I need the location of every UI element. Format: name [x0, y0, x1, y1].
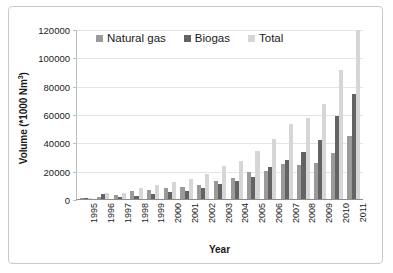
chart-figure: Volume (*1000 Nm3) 020000400006000080000…: [0, 0, 393, 273]
x-axis-tick-cell: 2009: [312, 201, 329, 243]
legend-item: Natural gas: [96, 32, 166, 44]
x-axis-tick-cell: 2001: [178, 201, 195, 243]
y-axis-tick-label: 20000: [24, 166, 70, 177]
x-axis-tick-cell: 2000: [161, 201, 178, 243]
bar: [272, 139, 276, 199]
y-axis-tick-label: 80000: [24, 81, 70, 92]
x-axis-tick-cell: 1997: [111, 201, 128, 243]
plot-area: [76, 30, 363, 200]
bar: [122, 193, 126, 199]
x-axis-tick-cell: 2006: [261, 201, 278, 243]
bar: [339, 70, 343, 199]
bar: [306, 118, 310, 199]
bar-group: [345, 30, 362, 199]
bar-group: [262, 30, 279, 199]
x-axis-tick-cell: 1996: [94, 201, 111, 243]
bar: [105, 193, 109, 199]
bar: [205, 174, 209, 199]
chart-legend: Natural gasBiogasTotal: [96, 32, 283, 44]
bar-group: [95, 30, 112, 199]
bar-group: [162, 30, 179, 199]
bar-group: [195, 30, 212, 199]
y-axis-title-superscript: 3: [17, 75, 24, 79]
bar-group: [212, 30, 229, 199]
x-axis-tick-labels: 1995199619971998199920002001200220032004…: [76, 201, 363, 243]
bar-group: [78, 30, 95, 199]
bar: [222, 166, 226, 199]
bar: [88, 198, 92, 199]
x-axis-tick-cell: 1999: [144, 201, 161, 243]
bar-group: [111, 30, 128, 199]
y-axis-tick-label: 40000: [24, 138, 70, 149]
y-axis-tick-label: 0: [24, 195, 70, 206]
bar-group: [312, 30, 329, 199]
x-axis-tick-cell: 2004: [228, 201, 245, 243]
y-axis-tick-label: 100000: [24, 53, 70, 64]
bar: [155, 185, 159, 199]
bar-groups: [77, 30, 363, 199]
bar: [322, 104, 326, 199]
x-axis-tick-cell: 2008: [295, 201, 312, 243]
bar: [189, 179, 193, 199]
bar-group: [278, 30, 295, 199]
x-axis-tick-cell: 2002: [194, 201, 211, 243]
y-axis-tick-labels: 020000400006000080000100000120000: [24, 30, 70, 200]
bar-group: [228, 30, 245, 199]
bar-group: [245, 30, 262, 199]
bar: [255, 151, 259, 199]
bar-group: [128, 30, 145, 199]
x-axis-title: Year: [76, 244, 363, 255]
bar-group: [178, 30, 195, 199]
bar-group: [145, 30, 162, 199]
legend-swatch-icon: [248, 35, 255, 42]
legend-label: Total: [259, 32, 283, 44]
legend-item: Biogas: [184, 32, 230, 44]
bar: [172, 182, 176, 199]
x-axis-tick-cell: 2010: [328, 201, 345, 243]
bar: [139, 188, 143, 199]
y-axis-tick-label: 120000: [24, 25, 70, 36]
x-axis-tick-label: 2011: [358, 203, 368, 222]
x-axis-tick-cell: 2003: [211, 201, 228, 243]
bar: [239, 161, 243, 199]
legend-swatch-icon: [184, 35, 191, 42]
bar: [289, 124, 293, 199]
x-axis-tick-cell: 2005: [245, 201, 262, 243]
x-axis-tick-cell: 2007: [278, 201, 295, 243]
x-axis-tick-cell: 1995: [77, 201, 94, 243]
x-axis-tick-cell: 2011: [345, 201, 362, 243]
x-axis-tick-cell: 1998: [127, 201, 144, 243]
y-axis-tick-label: 60000: [24, 110, 70, 121]
bar: [356, 30, 360, 199]
legend-item: Total: [248, 32, 283, 44]
bar-group: [295, 30, 312, 199]
legend-label: Biogas: [195, 32, 230, 44]
legend-swatch-icon: [96, 35, 103, 42]
legend-label: Natural gas: [107, 32, 166, 44]
bar-group: [329, 30, 346, 199]
